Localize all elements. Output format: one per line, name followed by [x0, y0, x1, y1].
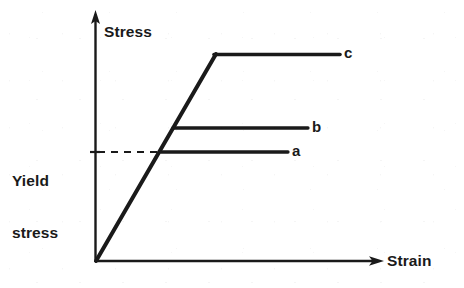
yield-stress-label: Yield stress	[12, 137, 58, 276]
stress-strain-chart	[0, 0, 464, 288]
curves-group	[96, 54, 340, 261]
stress-strain-figure: Stress Strain Yield stress a b c	[0, 0, 464, 288]
y-axis-label-stress: Stress	[104, 23, 152, 40]
axes-group	[90, 10, 384, 266]
curve-label-c: c	[344, 45, 352, 62]
elastic-loading-line	[96, 54, 216, 261]
x-axis-label-strain: Strain	[387, 252, 432, 269]
yield-stress-label-line1: Yield	[12, 172, 58, 189]
curve-label-b: b	[312, 119, 321, 136]
yield-stress-label-line2: stress	[12, 224, 58, 241]
curve-label-a: a	[292, 143, 300, 160]
